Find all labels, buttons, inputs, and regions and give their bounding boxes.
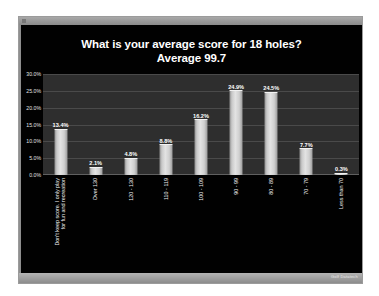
- chart-title-line1: What is your average score for 18 holes?: [81, 38, 301, 50]
- bar-group: 0.3%: [324, 74, 359, 175]
- bar-value-label: 4.8%: [124, 151, 137, 157]
- bar-group: 4.8%: [113, 74, 148, 175]
- bar-group: 24.5%: [254, 74, 289, 175]
- bar-group: 2.1%: [78, 74, 113, 175]
- bar-group: 13.4%: [43, 74, 78, 175]
- bar: [335, 173, 348, 175]
- bar-group: 24.9%: [219, 74, 254, 175]
- bar-value-label: 24.9%: [228, 84, 244, 90]
- chart-subtitle: Average 99.7: [21, 51, 362, 65]
- bar: [159, 144, 172, 175]
- y-axis-tick-label: 10.0%: [26, 138, 41, 144]
- bar: [230, 90, 243, 175]
- y-axis-tick-label: 30.0%: [26, 71, 41, 77]
- watermark-label: Golf Datatech: [331, 274, 358, 279]
- bar-value-label: 24.5%: [263, 85, 279, 91]
- bar-value-label: 7.7%: [300, 142, 313, 148]
- bar: [300, 148, 313, 175]
- bar: [194, 119, 207, 175]
- plot-area: 13.4%2.1%4.8%8.8%16.2%24.9%24.5%7.7%0.3%: [43, 74, 359, 175]
- y-axis-tick-label: 5.0%: [29, 155, 41, 161]
- y-axis-tick-label: 20.0%: [26, 105, 41, 111]
- window-statusbar: Golf Datatech: [19, 273, 362, 283]
- y-axis-tick-label: 15.0%: [26, 122, 41, 128]
- bar-value-label: 13.4%: [53, 122, 69, 128]
- bar-value-label: 8.8%: [160, 138, 173, 144]
- bar-group: 16.2%: [183, 74, 218, 175]
- window-titlebar: [19, 17, 362, 25]
- y-axis-tick-label: 0.0%: [29, 172, 41, 178]
- bar-value-label: 0.3%: [335, 166, 348, 172]
- y-axis: 30.0%25.0%20.0%15.0%10.0%5.0%0.0%: [21, 74, 42, 175]
- bar-value-label: 16.2%: [193, 113, 209, 119]
- bar: [89, 167, 102, 175]
- x-axis: Don't keep score. I only playfor fun and…: [43, 176, 359, 275]
- bar-group: 8.8%: [148, 74, 183, 175]
- y-axis-tick-label: 25.0%: [26, 88, 41, 94]
- bar: [54, 129, 67, 175]
- bar-group: 7.7%: [289, 74, 324, 175]
- presentation-window: What is your average score for 18 holes?…: [18, 16, 363, 284]
- slide-canvas: What is your average score for 18 holes?…: [21, 25, 362, 275]
- bar: [265, 92, 278, 175]
- bar-value-label: 2.1%: [89, 160, 102, 166]
- titlebar-handle-icon: [22, 19, 26, 23]
- bar: [124, 158, 137, 175]
- chart-title: What is your average score for 18 holes?…: [21, 37, 362, 65]
